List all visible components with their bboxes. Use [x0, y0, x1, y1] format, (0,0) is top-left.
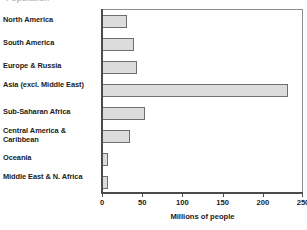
bar [102, 130, 130, 143]
category-axis: North AmericaSouth AmericaEurope & Russi… [0, 9, 100, 193]
bar [102, 61, 137, 74]
plot-area [102, 9, 303, 193]
category-label: Asia (excl. Middle East) [3, 81, 100, 90]
tick-mark [302, 194, 303, 197]
category-label: Middle East & N. Africa [3, 173, 100, 182]
category-label: South America [3, 39, 100, 48]
bar [102, 107, 145, 120]
tick-label: 250 [297, 198, 307, 207]
category-label: Sub-Saharan Africa [3, 108, 100, 117]
tick-mark [142, 194, 143, 197]
category-label: Oceania [3, 154, 100, 163]
bar [102, 38, 134, 51]
tick-label: 150 [216, 198, 229, 207]
tick-mark [182, 194, 183, 197]
bar-chart-figure: Population North AmericaSouth AmericaEur… [0, 0, 307, 230]
value-axis: 050100150200250 [102, 194, 303, 210]
category-label: Central America & Caribbean [3, 127, 100, 144]
bar [102, 84, 288, 97]
tick-label: 200 [256, 198, 269, 207]
category-label: North America [3, 16, 100, 25]
category-label: Europe & Russia [3, 62, 100, 71]
value-axis-spine [101, 9, 103, 194]
bar [102, 15, 127, 28]
cut-off-title-strip: Population [0, 0, 307, 8]
tick-label: 100 [176, 198, 189, 207]
tick-mark [102, 194, 103, 197]
tick-label: 0 [100, 198, 104, 207]
chart-title-clipped: Population [6, 0, 49, 3]
tick-mark [223, 194, 224, 197]
tick-mark [263, 194, 264, 197]
tick-label: 50 [138, 198, 146, 207]
value-axis-title: Millions of people [102, 212, 303, 221]
